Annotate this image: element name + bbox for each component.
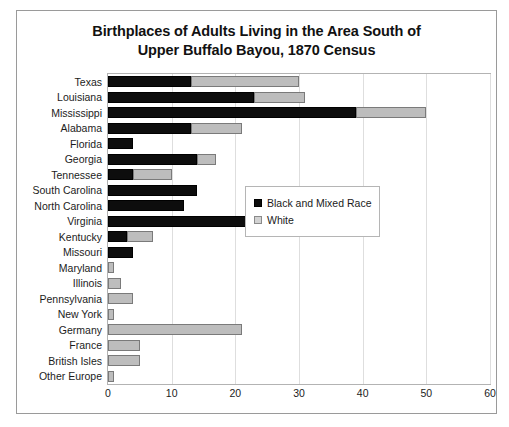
category-label-missouri: Missouri [63, 246, 102, 258]
chart-container: Birthplaces of Adults Living in the Area… [16, 10, 497, 414]
x-tick-0: 0 [105, 387, 111, 399]
category-label-mississippi: Mississippi [51, 107, 102, 119]
bar-segment [108, 200, 184, 211]
bar-row: Pennsylvania [108, 291, 490, 307]
category-label-georgia: Georgia [65, 153, 102, 165]
bar-segment [108, 293, 133, 304]
x-tick-10: 10 [166, 387, 178, 399]
bar-segment [108, 247, 133, 258]
bar-row: France [108, 338, 490, 354]
legend-label-black-and-mixed-race: Black and Mixed Race [267, 197, 371, 209]
bar-segment [108, 169, 133, 180]
bar-segment [254, 92, 305, 103]
bar-segment [108, 278, 121, 289]
category-label-texas: Texas [75, 76, 102, 88]
bar-row: Mississippi [108, 105, 490, 121]
bar-row: Louisiana [108, 90, 490, 106]
bar-row: Texas [108, 74, 490, 90]
category-label-france: France [69, 339, 102, 351]
bar-segment [356, 107, 426, 118]
category-label-north-carolina: North Carolina [34, 200, 102, 212]
category-label-virginia: Virginia [67, 215, 102, 227]
legend-label-white: White [267, 214, 294, 226]
bar-segment [108, 355, 140, 366]
bar-segment [108, 340, 140, 351]
category-label-maryland: Maryland [59, 262, 102, 274]
bar-segment [108, 123, 191, 134]
x-tick-20: 20 [229, 387, 241, 399]
bar-segment [108, 107, 356, 118]
bar-segment [108, 138, 133, 149]
category-label-new-york: New York [58, 308, 102, 320]
bar-segment [108, 216, 254, 227]
chart-legend: Black and Mixed Race White [245, 186, 380, 237]
legend-item-black-and-mixed-race: Black and Mixed Race [254, 194, 371, 211]
x-tick-30: 30 [293, 387, 305, 399]
bar-segment [108, 76, 191, 87]
category-label-tennessee: Tennessee [51, 169, 102, 181]
bar-row: Alabama [108, 121, 490, 137]
bar-row: Other Europe [108, 369, 490, 385]
category-label-germany: Germany [59, 324, 102, 336]
bar-row: Tennessee [108, 167, 490, 183]
bar-segment [108, 154, 197, 165]
bar-segment [197, 154, 216, 165]
bar-row: Illinois [108, 276, 490, 292]
bar-segment [108, 185, 197, 196]
category-label-louisiana: Louisiana [57, 91, 102, 103]
bar-segment [127, 231, 152, 242]
bar-row: Germany [108, 322, 490, 338]
bar-segment [108, 231, 127, 242]
bar-segment [108, 371, 114, 382]
category-label-illinois: Illinois [73, 277, 102, 289]
bar-segment [191, 123, 242, 134]
chart-title: Birthplaces of Adults Living in the Area… [17, 22, 496, 60]
bar-row: New York [108, 307, 490, 323]
x-tick-50: 50 [420, 387, 432, 399]
bar-row: British Isles [108, 353, 490, 369]
category-label-kentucky: Kentucky [59, 231, 102, 243]
category-label-british-isles: British Isles [48, 355, 102, 367]
chart-title-line-1: Birthplaces of Adults Living in the Area… [17, 22, 496, 41]
legend-swatch-black-icon [254, 199, 262, 207]
bar-row: Missouri [108, 245, 490, 261]
x-axis-tick-labels: 0102030405060 [107, 387, 491, 403]
category-label-other-europe: Other Europe [39, 370, 102, 382]
bar-segment [133, 169, 171, 180]
gridline [490, 74, 491, 384]
category-label-south-carolina: South Carolina [33, 184, 102, 196]
x-tick-40: 40 [357, 387, 369, 399]
category-label-pennsylvania: Pennsylvania [40, 293, 102, 305]
bar-row: Maryland [108, 260, 490, 276]
bar-segment [108, 92, 254, 103]
x-tick-60: 60 [484, 387, 496, 399]
bar-row: Georgia [108, 152, 490, 168]
bar-segment [191, 76, 299, 87]
category-label-florida: Florida [70, 138, 102, 150]
bar-segment [108, 262, 114, 273]
category-label-alabama: Alabama [61, 122, 102, 134]
chart-title-line-2: Upper Buffalo Bayou, 1870 Census [17, 41, 496, 60]
bar-segment [108, 309, 114, 320]
bar-row: Florida [108, 136, 490, 152]
legend-item-white: White [254, 211, 371, 228]
bar-segment [108, 324, 242, 335]
legend-swatch-white-icon [254, 216, 262, 224]
